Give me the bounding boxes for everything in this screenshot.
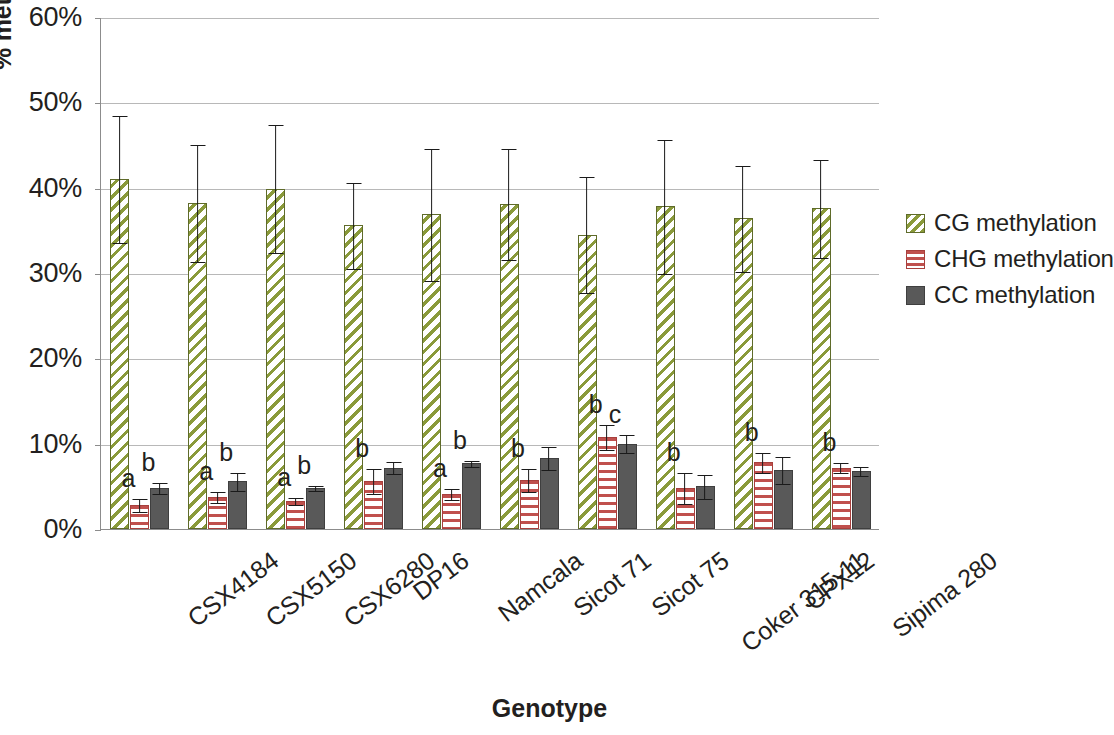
legend-label: CC methylation xyxy=(934,281,1095,309)
error-bar-chg xyxy=(286,498,305,507)
error-bar-cg xyxy=(656,140,675,275)
error-bar-cg xyxy=(578,177,597,295)
error-bar-cc xyxy=(228,473,247,492)
bar-cc[interactable] xyxy=(618,444,637,529)
error-bar-chg xyxy=(130,499,149,513)
error-bar-chg xyxy=(208,492,227,504)
bar-cc[interactable] xyxy=(306,488,325,529)
error-bar-cg xyxy=(110,116,129,244)
significance-letter: b xyxy=(219,440,233,465)
error-bar-chg xyxy=(442,489,461,501)
bar-group: bc xyxy=(568,18,646,529)
y-axis-tick-label: 40% xyxy=(0,173,82,204)
significance-letter: b xyxy=(823,430,837,455)
error-bar-cc xyxy=(306,486,325,491)
y-axis-tick-label: 0% xyxy=(0,514,82,545)
significance-letter: b xyxy=(667,440,681,465)
bar-cc[interactable] xyxy=(384,468,403,529)
legend-item[interactable]: CHG methylation xyxy=(906,241,1114,277)
bar-group: ab xyxy=(413,18,491,529)
legend-swatch-chg-icon xyxy=(906,250,925,269)
significance-letter: c xyxy=(609,402,622,427)
error-bar-cg xyxy=(812,160,831,259)
error-bar-cg xyxy=(266,125,285,255)
legend-swatch-cc-icon xyxy=(906,286,925,305)
error-bar-chg xyxy=(754,453,773,473)
bar-group: ab xyxy=(257,18,335,529)
error-bar-chg xyxy=(676,473,695,505)
y-axis-tick xyxy=(95,530,101,531)
legend-item[interactable]: CG methylation xyxy=(906,205,1114,241)
error-bar-cc xyxy=(150,483,169,495)
plot-area: abababbabbbcbbb xyxy=(100,18,879,530)
y-axis-tick-label: 20% xyxy=(0,343,82,374)
error-bar-cc xyxy=(696,475,715,501)
error-bar-chg xyxy=(520,469,539,493)
significance-letter: a xyxy=(277,465,291,490)
significance-letter: a xyxy=(199,459,213,484)
error-bar-cc xyxy=(462,461,481,468)
bar-group: b xyxy=(724,18,802,529)
bar-chg[interactable] xyxy=(832,468,851,529)
legend-label: CHG methylation xyxy=(934,245,1114,273)
significance-letter: b xyxy=(297,453,311,478)
error-bar-cc xyxy=(774,457,793,484)
bar-group: b xyxy=(802,18,880,529)
x-axis-title: Genotype xyxy=(0,694,1099,723)
error-bar-cc xyxy=(852,467,871,477)
bar-group: b xyxy=(491,18,569,529)
bar-group: b xyxy=(335,18,413,529)
bar-group: ab xyxy=(179,18,257,529)
x-axis-category-label: Sipima 280 xyxy=(887,546,1003,643)
significance-letter: a xyxy=(433,456,447,481)
legend-swatch-cg-icon xyxy=(906,214,925,233)
y-axis-tick-label: 10% xyxy=(0,429,82,460)
x-axis-category-label: Namcala xyxy=(492,546,587,628)
bar-cc[interactable] xyxy=(852,471,871,529)
error-bar-chg xyxy=(832,463,851,473)
y-axis-tick-label: 60% xyxy=(0,2,82,33)
error-bar-cg xyxy=(500,149,519,262)
bar-group: ab xyxy=(101,18,179,529)
legend-label: CG methylation xyxy=(934,209,1097,237)
error-bar-cg xyxy=(344,183,363,270)
significance-letter: b xyxy=(745,420,759,445)
error-bar-chg xyxy=(598,425,617,451)
y-axis-tick-label: 50% xyxy=(0,87,82,118)
error-bar-chg xyxy=(364,469,383,495)
bar-cc[interactable] xyxy=(462,463,481,529)
bar-cg[interactable] xyxy=(344,225,363,529)
error-bar-cg xyxy=(734,166,753,274)
x-axis-category-label: Sicot 71 xyxy=(568,546,656,623)
significance-letter: b xyxy=(355,436,369,461)
bar-group: b xyxy=(646,18,724,529)
significance-letter: b xyxy=(589,392,603,417)
legend-item[interactable]: CC methylation xyxy=(906,277,1114,313)
legend: CG methylation CHG methylation CC methyl… xyxy=(906,205,1114,313)
significance-letter: b xyxy=(141,450,155,475)
error-bar-cc xyxy=(618,435,637,454)
bar-chg[interactable] xyxy=(598,437,617,529)
error-bar-cg xyxy=(422,149,441,282)
significance-letter: b xyxy=(511,436,525,461)
error-bar-cc xyxy=(384,462,403,476)
error-bar-cg xyxy=(188,145,207,263)
y-axis-tick-label: 30% xyxy=(0,258,82,289)
x-axis-category-label: Sicot 75 xyxy=(646,546,734,623)
significance-letter: b xyxy=(453,428,467,453)
error-bar-cc xyxy=(540,447,559,471)
significance-letter: a xyxy=(121,466,135,491)
